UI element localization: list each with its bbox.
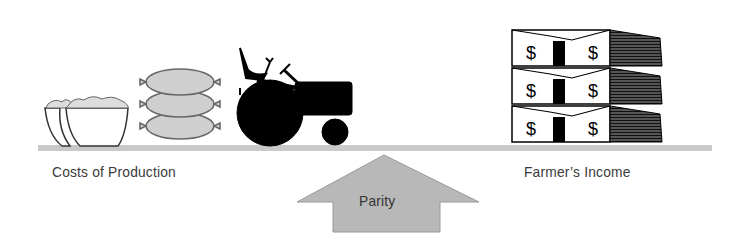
grain-bowls-icon [45,97,128,146]
balance-beam [38,145,712,151]
costs-of-production-label: Costs of Production [52,163,176,180]
farmers-income-label: Farmer’s Income [524,163,631,180]
tractor-icon [237,48,352,146]
parity-label: Parity [359,192,395,209]
money-stack-icon: $ $ [512,30,662,142]
svg-text:$: $ [526,43,536,63]
svg-text:$: $ [588,43,598,63]
grain-sacks-icon [140,69,220,139]
